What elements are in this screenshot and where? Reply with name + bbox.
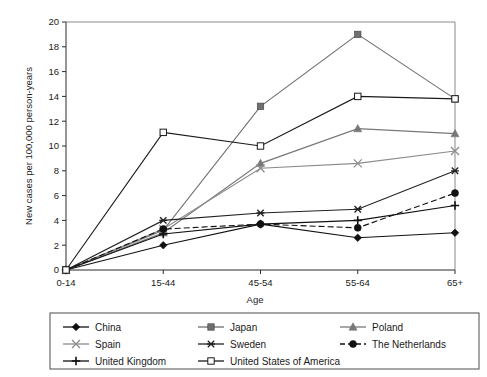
marker-asterisk	[257, 210, 265, 216]
chart-legend: ChinaJapanPolandSpainSwedenThe Netherlan…	[50, 313, 479, 369]
x-tick-label: 15-44	[151, 277, 175, 288]
data-point-asterisk	[159, 217, 167, 223]
legend-label: United Kingdom	[95, 356, 166, 367]
x-tick-label: 55-64	[346, 277, 370, 288]
data-point-open-square	[452, 96, 458, 102]
marker-plus	[354, 216, 362, 224]
legend-label: The Netherlands	[372, 339, 446, 350]
data-point-filled-square	[257, 103, 263, 109]
marker-diamond	[159, 241, 167, 249]
legend-label: United States of America	[230, 356, 340, 367]
series-line	[66, 96, 455, 270]
data-point-filled-square	[355, 31, 361, 37]
marker-square	[208, 324, 214, 330]
data-point-open-square	[208, 358, 214, 364]
marker-open-square	[63, 267, 69, 273]
data-point-filled-diamond	[354, 234, 362, 242]
x-axis-ticks: 0-1415-4445-5455-6465+	[56, 270, 463, 288]
x-axis-title: Age	[247, 294, 264, 305]
data-point-filled-diamond	[451, 229, 459, 237]
data-point-open-square	[257, 143, 263, 149]
series-japan	[63, 31, 458, 273]
series-line	[66, 224, 455, 270]
marker-square	[257, 103, 263, 109]
series-line	[66, 206, 455, 270]
legend-label: Sweden	[230, 339, 266, 350]
y-tick-label: 18	[48, 41, 59, 52]
series-line	[66, 193, 455, 270]
y-tick-label: 0	[54, 264, 59, 275]
legend-label: China	[95, 322, 122, 333]
x-tick-label: 65+	[447, 277, 464, 288]
marker-plus	[256, 220, 264, 228]
data-point-open-square	[355, 93, 361, 99]
y-axis-title: New cases per 100,000 person-years	[23, 67, 34, 225]
data-point-plus	[451, 201, 459, 209]
marker-asterisk	[159, 217, 167, 223]
marker-circle	[354, 224, 361, 231]
marker-square	[355, 31, 361, 37]
data-point-filled-triangle	[354, 124, 362, 131]
marker-triangle	[354, 124, 362, 131]
data-point-plus	[354, 216, 362, 224]
data-point-filled-circle	[452, 190, 459, 197]
y-tick-label: 4	[54, 215, 59, 226]
marker-asterisk	[354, 206, 362, 212]
data-point-filled-diamond	[159, 241, 167, 249]
series-layer	[62, 31, 459, 274]
marker-open-square	[160, 129, 166, 135]
y-axis-ticks: 02468101214161820	[48, 16, 66, 275]
data-point-open-square	[160, 129, 166, 135]
marker-diamond	[451, 229, 459, 237]
marker-circle	[452, 190, 459, 197]
y-tick-label: 12	[48, 116, 59, 127]
marker-plus	[451, 201, 459, 209]
series-line	[66, 34, 455, 270]
y-tick-label: 20	[48, 16, 59, 27]
marker-open-square	[452, 96, 458, 102]
series-the-netherlands	[63, 190, 459, 274]
data-point-open-square	[63, 267, 69, 273]
data-point-filled-circle	[354, 224, 361, 231]
y-tick-label: 6	[54, 190, 59, 201]
marker-open-square	[208, 358, 214, 364]
y-tick-label: 16	[48, 66, 59, 77]
marker-diamond	[354, 234, 362, 242]
data-point-filled-square	[208, 324, 214, 330]
data-point-asterisk	[354, 206, 362, 212]
data-point-filled-circle	[350, 341, 357, 348]
x-tick-label: 45-54	[248, 277, 272, 288]
y-tick-label: 14	[48, 91, 59, 102]
y-tick-label: 2	[54, 240, 59, 251]
marker-open-square	[257, 143, 263, 149]
chart-figure: 02468101214161820 0-1415-4445-5455-6465+…	[0, 0, 487, 377]
marker-open-square	[355, 93, 361, 99]
line-chart-svg: 02468101214161820 0-1415-4445-5455-6465+…	[0, 0, 487, 377]
legend-label: Poland	[372, 322, 403, 333]
legend-label: Spain	[95, 339, 121, 350]
x-tick-label: 0-14	[56, 277, 75, 288]
data-point-asterisk	[257, 210, 265, 216]
data-point-plus	[256, 220, 264, 228]
legend-label: Japan	[230, 322, 257, 333]
marker-circle	[350, 341, 357, 348]
y-tick-label: 8	[54, 165, 59, 176]
y-tick-label: 10	[48, 140, 59, 151]
